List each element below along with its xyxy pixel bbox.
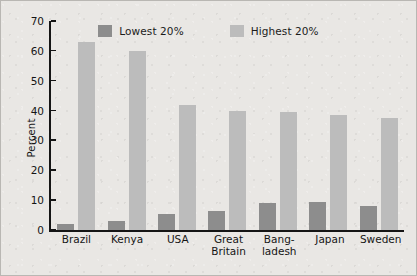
legend-swatch-highest	[230, 25, 244, 37]
bar	[158, 214, 175, 230]
bar-group	[152, 21, 202, 230]
bar	[208, 211, 225, 230]
chart-legend: Lowest 20% Highest 20%	[1, 25, 416, 37]
legend-entry-lowest: Lowest 20%	[98, 25, 183, 37]
bar-group	[253, 21, 303, 230]
legend-label-highest: Highest 20%	[251, 25, 319, 37]
x-axis-label: Brazil	[51, 234, 102, 257]
legend-label-lowest: Lowest 20%	[119, 25, 183, 37]
x-axis-label: Japan	[305, 234, 356, 257]
bar	[179, 105, 196, 230]
y-tick-label: 30	[31, 134, 44, 146]
x-axis-label: Bang-ladesh	[254, 234, 305, 257]
x-axis-label: Kenya	[102, 234, 153, 257]
y-tick-label: 10	[31, 194, 44, 206]
y-tick-label: 40	[31, 105, 44, 117]
bar	[360, 206, 377, 230]
bar-group	[51, 21, 101, 230]
bar	[330, 115, 347, 230]
x-axis-label: Sweden	[355, 234, 406, 257]
bar-chart-figure: Lowest 20% Highest 20% Percent 010203040…	[0, 0, 417, 276]
x-axis-labels: BrazilKenyaUSAGreatBritainBang-ladeshJap…	[51, 234, 406, 257]
bar-group	[202, 21, 252, 230]
bar	[57, 224, 74, 230]
bar	[280, 112, 297, 230]
y-tick-label: 50	[31, 75, 44, 87]
plot-area: 010203040506070	[49, 21, 404, 230]
x-axis-label: USA	[152, 234, 203, 257]
bar	[309, 202, 326, 230]
y-tick-label: 60	[31, 45, 44, 57]
y-tick-label: 0	[37, 224, 44, 236]
x-axis-line	[49, 230, 404, 232]
bar-group	[101, 21, 151, 230]
bar	[129, 51, 146, 230]
bar	[229, 111, 246, 230]
bar-groups	[51, 21, 404, 230]
bar-group	[303, 21, 353, 230]
bar	[78, 42, 95, 230]
x-axis-label: GreatBritain	[203, 234, 254, 257]
bar	[259, 203, 276, 230]
legend-entry-highest: Highest 20%	[230, 25, 319, 37]
bar	[108, 221, 125, 230]
y-tick-label: 20	[31, 164, 44, 176]
bar	[381, 118, 398, 230]
legend-swatch-lowest	[98, 25, 112, 37]
bar-group	[354, 21, 404, 230]
